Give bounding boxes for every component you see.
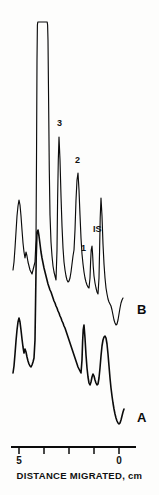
trace-b-group: [13, 22, 123, 325]
peak-label-2: 2: [75, 156, 80, 165]
axis-tick-label-5: 5: [13, 456, 25, 466]
trace-a-curve: [13, 230, 124, 424]
chromatogram-plot: [0, 0, 159, 495]
x-axis: [11, 447, 136, 454]
trace-b-curve: [13, 22, 123, 325]
peak-label-is: IS: [93, 225, 102, 234]
peak-label-3: 3: [57, 119, 62, 128]
chromatogram-figure: 3 2 1 IS B A 5 0 DISTANCE MIGRATED, cm: [0, 0, 159, 495]
trace-label-b: B: [137, 303, 146, 316]
peak-label-1: 1: [81, 244, 86, 253]
trace-label-a: A: [137, 411, 146, 424]
axis-tick-label-0: 0: [113, 456, 125, 466]
axis-title: DISTANCE MIGRATED, cm: [0, 470, 159, 481]
trace-a-group: [13, 230, 124, 424]
